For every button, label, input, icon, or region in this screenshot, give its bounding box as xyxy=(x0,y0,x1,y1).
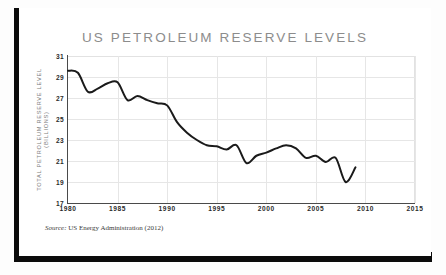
y-axis-tick-label: 21 xyxy=(56,158,64,165)
data-series-line xyxy=(68,56,415,203)
x-axis-tick-label: 2015 xyxy=(406,205,423,212)
source-label: Source: xyxy=(45,224,67,232)
y-axis-title-line-2: (BILLIONS) xyxy=(43,111,49,147)
x-axis-tick-label: 2000 xyxy=(258,205,275,212)
y-axis-tick-label: 19 xyxy=(56,179,64,186)
gridline-vertical xyxy=(415,56,416,203)
source-value: US Energy Administration (2012) xyxy=(68,224,163,232)
y-axis-tick-label: 31 xyxy=(56,53,64,60)
x-axis-line xyxy=(67,203,415,204)
plot-area xyxy=(68,56,415,203)
y-axis-tick-label: 25 xyxy=(56,116,64,123)
x-axis-tick-label: 1980 xyxy=(59,205,76,212)
screenshot-root: US PETROLEUM RESERVE LEVELS TOTAL PETROL… xyxy=(0,0,446,275)
y-axis-tick-label: 27 xyxy=(56,95,64,102)
y-axis-title-line-1: TOTAL PETROLEUM RESERVE LEVEL xyxy=(36,68,42,191)
y-axis-tick-label: 29 xyxy=(56,74,64,81)
chart-card: US PETROLEUM RESERVE LEVELS TOTAL PETROL… xyxy=(19,8,431,256)
x-axis-tick-label: 1985 xyxy=(109,205,126,212)
x-axis-ticks: 19801985199019952000200520102015 xyxy=(68,205,415,219)
series-path xyxy=(68,71,356,183)
x-axis-tick-label: 2005 xyxy=(307,205,324,212)
page-title: US PETROLEUM RESERVE LEVELS xyxy=(19,30,431,45)
x-axis-tick-label: 1990 xyxy=(159,205,176,212)
y-axis-ticks: 1719212325272931 xyxy=(49,56,64,203)
source-note: Source: US Energy Administration (2012) xyxy=(45,224,163,232)
x-axis-tick-label: 2010 xyxy=(357,205,374,212)
x-axis-tick-label: 1995 xyxy=(208,205,225,212)
y-axis-tick-label: 23 xyxy=(56,137,64,144)
